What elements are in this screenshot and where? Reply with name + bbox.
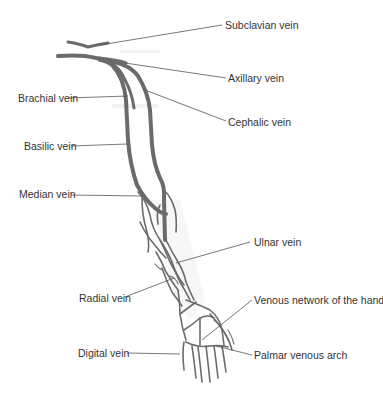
label-venous-network-hand: Venous network of the hand (254, 294, 383, 306)
label-cephalic-vein: Cephalic vein (228, 116, 291, 128)
label-brachial-vein: Brachial vein (18, 92, 78, 104)
label-subclavian-vein: Subclavian vein (225, 19, 299, 31)
arm-veins-diagram: Subclavian vein Axillary vein Brachial v… (0, 0, 383, 398)
leader-lines (68, 25, 252, 355)
label-axillary-vein: Axillary vein (228, 72, 284, 84)
label-basilic-vein: Basilic vein (24, 140, 77, 152)
label-digital-vein: Digital vein (78, 347, 130, 359)
label-ulnar-vein: Ulnar vein (254, 236, 301, 248)
label-palmar-venous-arch: Palmar venous arch (254, 349, 348, 361)
label-radial-vein: Radial vein (79, 292, 131, 304)
label-median-vein: Median vein (19, 188, 76, 200)
